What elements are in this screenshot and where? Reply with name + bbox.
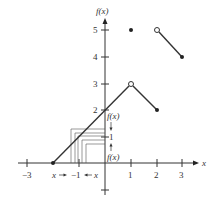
y-tick-label-3: 3	[93, 79, 98, 89]
closed-point-3-4	[180, 55, 184, 59]
open-point-2-5	[155, 28, 160, 33]
annotation-fx-below: f(x)	[107, 152, 120, 162]
annotation-limit-point: −1	[71, 170, 81, 180]
x-tick-label-1: 1	[128, 170, 133, 180]
y-tick-label-2: 2	[93, 105, 98, 115]
left-arrow-icon	[84, 174, 88, 177]
y-axis-label: f(x)	[96, 6, 109, 16]
open-point-1-3	[129, 82, 134, 87]
x-tick-label-3: 3	[179, 170, 184, 180]
approach-hatch-lines	[71, 129, 105, 163]
y-tick-label-4: 4	[93, 52, 98, 62]
annotation-limit-value: 1	[109, 132, 114, 142]
y-axis-arrow-icon	[103, 18, 108, 24]
closed-point-2-2	[155, 108, 159, 112]
function-curve	[53, 32, 182, 163]
right-arrow-icon	[64, 174, 68, 177]
x-axis-label: x	[201, 158, 206, 168]
down-arrow-icon	[110, 128, 113, 132]
limit-graph: x f(x) −3 1 2 3 5 4 3 2	[0, 0, 217, 214]
closed-point-1-5	[129, 28, 133, 32]
x-axis-arrow-icon	[193, 161, 199, 166]
annotation-x-left: x	[51, 170, 56, 180]
closed-point-neg2-0	[51, 161, 55, 165]
x-tick-label-2: 2	[154, 170, 159, 180]
x-tick-label-neg3: −3	[22, 170, 32, 180]
annotation-fx-above: f(x)	[107, 111, 120, 121]
y-tick-label-5: 5	[93, 25, 98, 35]
up-arrow-icon	[110, 143, 113, 147]
annotation-x-right: x	[93, 170, 98, 180]
